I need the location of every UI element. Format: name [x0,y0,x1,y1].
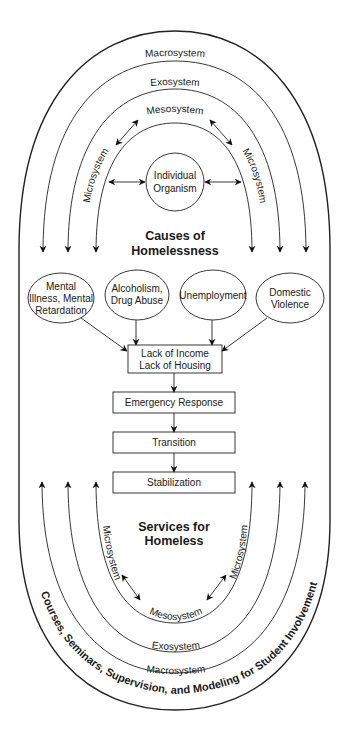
services-title-line2: Homeless [144,534,203,548]
top-mesosystem-label: Mesosystem [146,103,205,117]
flow-1-line2: Lack of Housing [139,360,211,371]
bottom-macrosystem-label: Macrosystem [146,663,206,676]
meso-left-double-arrow [116,120,138,145]
arrow-cause4-to-lack [222,318,267,351]
organism-label-2: Organism [153,183,196,194]
cause-2-line2: Drug Abuse [111,295,164,306]
individual-organism-node [146,153,204,211]
organism-label-1: Individual [154,170,196,181]
causes-title-line2: Homelessness [131,244,219,258]
cause-1-line2: Illness, Mental [29,293,93,304]
flow-2-label: Emergency Response [125,397,224,408]
cause-4-line2: Violence [271,299,310,310]
cause-1-line1: Mental [46,281,76,292]
bottom-meso-left-double-arrow [122,575,140,600]
cause-node-domestic-violence [256,273,324,323]
cause-4-line1: Domestic [269,287,311,298]
top-microsystem-left-label: Microsystem [81,146,111,203]
causes-title-line1: Causes of [145,229,206,243]
bottom-mesosystem-arc [96,482,252,623]
top-exosystem-label: Exosystem [150,76,200,88]
top-macrosystem-arc [43,61,306,252]
flow-4-label: Stabilization [147,477,201,488]
bottom-microsystem-left-label: Microsystem [101,525,124,581]
homelessness-ecological-diagram: Individual Organism Macrosystem Exosyste… [0,0,347,736]
top-microsystem-right-label: Microsystem [240,146,269,204]
cause-3-line1: Unemployment [179,290,246,301]
top-macrosystem-label: Macrosystem [145,47,206,59]
bottom-microsystem-right-label: Microsystem [227,524,249,580]
bottom-meso-right-double-arrow [207,575,226,600]
cause-1-line3: Retardation [35,305,87,316]
bottom-exosystem-label: Exosystem [151,639,200,652]
arrow-cause1-to-lack [81,318,127,351]
flow-3-label: Transition [152,437,196,448]
bottom-exosystem-arc [68,482,280,652]
services-title-line1: Services for [138,520,210,534]
bottom-mesosystem-label: Mesosystem [148,605,204,622]
cause-2-line1: Alcoholism, [111,283,162,294]
flow-1-line1: Lack of Income [141,348,209,359]
